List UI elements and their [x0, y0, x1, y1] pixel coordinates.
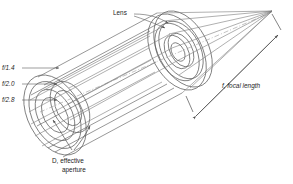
lens-label: Lens — [113, 9, 127, 16]
diagram-canvas: Lens f/1.4 f/2.0 f/2.8 D, effective aper… — [0, 0, 293, 184]
converging-ray-cone — [157, 11, 272, 93]
lens-element-rings — [136, 1, 225, 100]
aperture-label-line1: D, effective — [52, 157, 84, 164]
fstop-label-f20: f/2.0 — [2, 80, 15, 87]
fstop-leader-lines — [22, 68, 59, 100]
focal-length-label: f, focal length — [222, 82, 260, 90]
aperture-label-line2: aperture — [62, 166, 86, 174]
effective-aperture-rings — [11, 64, 99, 165]
lens-diagram: Lens f/1.4 f/2.0 f/2.8 D, effective aper… — [0, 0, 293, 184]
fstop-label-f28: f/2.8 — [2, 96, 15, 103]
fstop-label-f14: f/1.4 — [2, 64, 15, 71]
